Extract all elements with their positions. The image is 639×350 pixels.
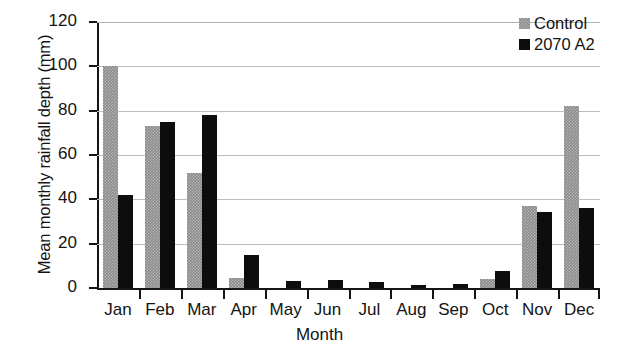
x-tick-mark-Jul — [349, 290, 351, 299]
x-tick-mark-Apr — [223, 290, 225, 299]
x-tick-mark-Sep — [432, 290, 434, 299]
x-tick-mark-Feb — [139, 290, 141, 299]
x-tick-label-Feb: Feb — [145, 300, 174, 320]
x-tick-mark-Mar — [181, 290, 183, 299]
legend-entry-scenario: 2070 A2 — [519, 35, 595, 54]
y-tick-mark-60 — [89, 154, 97, 156]
x-tick-label-Oct: Oct — [482, 300, 508, 320]
legend-entry-control: Control — [519, 14, 595, 33]
x-tick-mark-Jun — [307, 290, 309, 299]
y-tick-label-20: 20 — [58, 232, 77, 252]
x-tick-mark-May — [265, 290, 267, 299]
black-square-icon — [519, 39, 530, 50]
bar-group — [437, 284, 469, 288]
chart-legend: Control 2070 A2 — [519, 14, 595, 54]
bar-group — [186, 115, 218, 288]
x-tick-label-Nov: Nov — [522, 300, 552, 320]
bar — [328, 280, 343, 288]
y-tick-mark-120 — [89, 21, 97, 23]
x-tick-label-Jan: Jan — [104, 300, 131, 320]
bar — [522, 206, 537, 288]
bar — [160, 122, 175, 288]
y-tick-label-80: 80 — [58, 99, 77, 119]
bar-group — [563, 106, 595, 288]
gridline-100 — [97, 66, 600, 67]
bar-group — [353, 282, 385, 288]
rainfall-bar-chart: Mean monthly rainfall depth (mm) 0204060… — [0, 0, 639, 350]
bar — [579, 208, 594, 288]
x-tick-label-Jun: Jun — [314, 300, 341, 320]
bar-group — [312, 280, 344, 288]
bar — [229, 278, 244, 288]
y-tick-mark-40 — [89, 198, 97, 200]
y-tick-label-100: 100 — [49, 55, 77, 75]
bar — [145, 126, 160, 288]
x-tick-label-Apr: Apr — [230, 300, 256, 320]
gray-square-icon — [519, 18, 530, 29]
x-tick-mark-Oct — [474, 290, 476, 299]
y-axis-line — [97, 22, 99, 290]
y-tick-label-40: 40 — [58, 188, 77, 208]
bar — [537, 212, 552, 288]
bar — [480, 279, 495, 288]
bar — [187, 173, 202, 288]
plot-area: 020406080100120 — [97, 22, 600, 290]
y-tick-mark-100 — [89, 65, 97, 67]
gridline-80 — [97, 111, 600, 112]
bar-group — [102, 66, 134, 288]
bar — [453, 284, 468, 288]
bar-group — [228, 255, 260, 288]
bar — [369, 282, 384, 288]
bar — [495, 271, 510, 288]
legend-label-control: Control — [534, 14, 587, 33]
bar-group — [521, 206, 553, 288]
x-tick-mark-Dec — [558, 290, 560, 299]
y-tick-mark-0 — [89, 287, 97, 289]
y-tick-mark-80 — [89, 110, 97, 112]
x-tick-label-Dec: Dec — [564, 300, 594, 320]
bar — [411, 285, 426, 288]
bar — [103, 66, 118, 288]
y-tick-label-120: 120 — [49, 11, 77, 31]
bar-group — [144, 122, 176, 288]
y-tick-mark-20 — [89, 243, 97, 245]
bar — [564, 106, 579, 288]
bar — [202, 115, 217, 288]
x-axis-title: Month — [0, 325, 639, 345]
x-tick-label-Aug: Aug — [396, 300, 426, 320]
legend-label-scenario: 2070 A2 — [534, 35, 595, 54]
y-tick-label-60: 60 — [58, 144, 77, 164]
x-tick-mark-end — [598, 290, 600, 299]
y-axis-title: Mean monthly rainfall depth (mm) — [35, 5, 54, 305]
bar-group — [270, 281, 302, 288]
x-tick-label-Sep: Sep — [438, 300, 468, 320]
x-tick-mark-Aug — [390, 290, 392, 299]
bar-group — [479, 271, 511, 288]
bar-group — [395, 285, 427, 288]
bar — [118, 195, 133, 288]
x-tick-label-Mar: Mar — [187, 300, 216, 320]
bar — [286, 281, 301, 288]
bar — [244, 255, 259, 288]
x-tick-label-May: May — [270, 300, 302, 320]
y-tick-label-0: 0 — [67, 277, 76, 297]
x-tick-mark-Nov — [516, 290, 518, 299]
x-tick-label-Jul: Jul — [359, 300, 381, 320]
